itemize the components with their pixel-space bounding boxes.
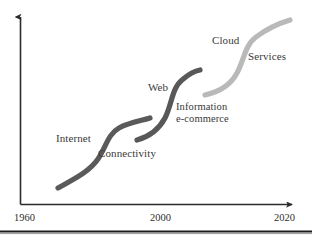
technology-waves-chart: [0, 0, 312, 241]
annotation-services: Services: [248, 51, 286, 63]
x-tick-label-2000: 2000: [150, 212, 171, 223]
x-tick-label-1960: 1960: [14, 212, 35, 223]
annotation-ecommerce: e-commerce: [176, 113, 229, 124]
annotation-connectivity: Connectivity: [98, 148, 156, 160]
annotation-cloud: Cloud: [212, 35, 239, 47]
annotation-information: Information: [176, 101, 227, 112]
page-bottom-rule: [0, 232, 312, 234]
figure-canvas: Internet Connectivity Web Information e-…: [0, 0, 312, 241]
annotation-web: Web: [148, 82, 168, 94]
annotation-internet: Internet: [56, 133, 91, 145]
x-tick-label-2020: 2020: [274, 212, 295, 223]
